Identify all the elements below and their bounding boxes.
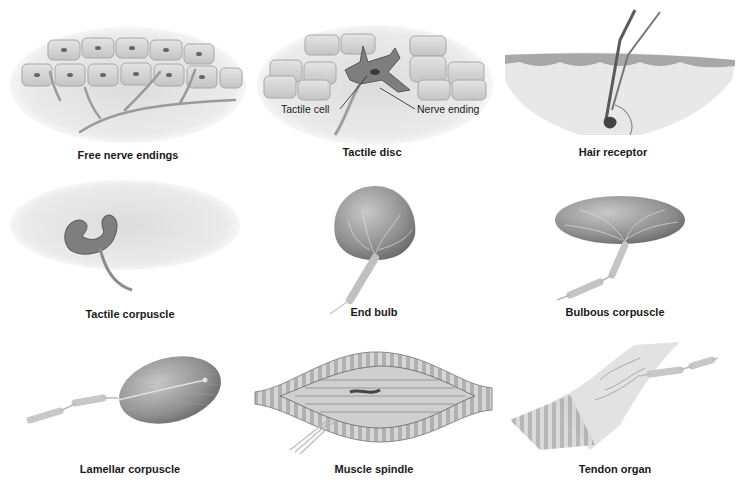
panel-tactile-corpuscle: Tactile corpuscle [0,170,250,330]
caption-hair-receptor: Hair receptor [579,146,647,158]
caption-muscle-spindle: Muscle spindle [335,463,414,475]
caption-tendon-organ: Tendon organ [579,463,652,475]
muscle-spindle-illustration [250,330,500,485]
caption-tactile-corpuscle: Tactile corpuscle [85,308,174,320]
panel-tactile-disc: Tactile cell Nerve ending Tactile disc [250,0,500,170]
tactile-corpuscle-illustration [0,170,250,330]
caption-free-nerve-endings: Free nerve endings [78,149,179,161]
panel-hair-receptor: Hair receptor [500,0,745,170]
panel-end-bulb: End bulb [250,170,500,330]
caption-tactile-disc: Tactile disc [342,146,401,158]
callout-tactile-cell: Tactile cell [281,103,329,115]
panel-lamellar-corpuscle: Lamellar corpuscle [0,330,250,485]
lamellar-corpuscle-illustration [0,330,250,485]
tactile-disc-illustration [250,0,500,170]
free-nerve-endings-illustration [0,0,250,170]
panel-muscle-spindle: Muscle spindle [250,330,500,485]
callout-nerve-ending: Nerve ending [417,103,479,115]
caption-lamellar-corpuscle: Lamellar corpuscle [80,463,180,475]
hair-receptor-illustration [500,0,745,170]
caption-end-bulb: End bulb [350,306,397,318]
panel-tendon-organ: Tendon organ [500,330,745,485]
panel-bulbous-corpuscle: Bulbous corpuscle [500,170,745,330]
tendon-organ-illustration [500,330,745,485]
caption-bulbous-corpuscle: Bulbous corpuscle [565,306,664,318]
panel-free-nerve-endings: Free nerve endings [0,0,250,170]
